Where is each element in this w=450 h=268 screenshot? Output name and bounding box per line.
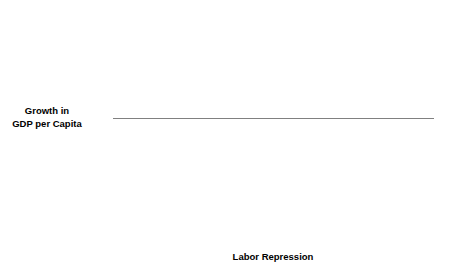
labor-repression-growth-scatter-chart: Labor Repression Growth in GDP per Capit…	[0, 0, 450, 268]
scatter-plot-figure: Labor Repression Growth in GDP per Capit…	[0, 0, 450, 268]
y-axis-title-line1: Growth in	[25, 105, 70, 116]
y-axis-title-line2: GDP per Capita	[12, 118, 82, 129]
x-axis-title: Labor Repression	[233, 251, 314, 262]
